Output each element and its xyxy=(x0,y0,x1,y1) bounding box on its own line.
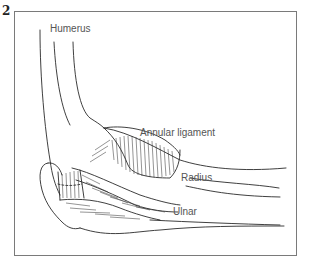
elbow-inner-curve xyxy=(48,163,62,175)
humerus-line-1 xyxy=(54,42,70,125)
collateral-ligament-band-2 xyxy=(76,180,178,212)
arm-outline-posterior xyxy=(40,30,60,195)
label-radius: Radius xyxy=(181,173,212,183)
small-ligament-left-edge xyxy=(58,172,60,200)
forearm-bottom-outline xyxy=(80,226,284,234)
label-ulnar: Ulnar xyxy=(173,207,197,217)
label-annular-ligament: Annular ligament xyxy=(140,128,215,138)
humerus-line-2 xyxy=(73,42,104,128)
collateral-ligament-band-1 xyxy=(72,168,180,205)
ulnar-band xyxy=(60,199,160,220)
ulnar-line xyxy=(150,220,280,225)
label-humerus: Humerus xyxy=(50,24,91,34)
radius-line-lower xyxy=(186,186,280,197)
